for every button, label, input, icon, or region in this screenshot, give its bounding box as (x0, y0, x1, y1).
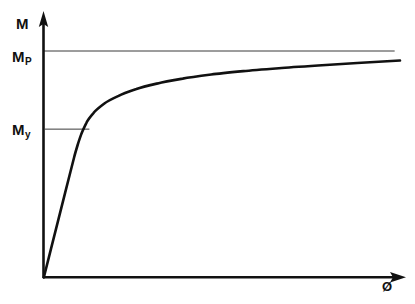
yield-moment-label-base: M (12, 121, 25, 138)
figure-canvas (0, 0, 415, 304)
yield-moment-label-subscript: y (25, 129, 31, 140)
plastic-moment-label-base: M (12, 48, 25, 65)
plastic-moment-label-subscript: P (25, 56, 32, 67)
x-axis-label: Ø (382, 280, 392, 293)
moment-curvature-figure: M MP My Ø (0, 0, 415, 304)
y-axis-label-base: M (16, 15, 29, 32)
plastic-moment-label: MP (12, 49, 32, 67)
x-axis-label-base: Ø (382, 279, 392, 294)
y-axis-label: M (16, 16, 29, 32)
yield-moment-label: My (12, 122, 31, 140)
moment-curvature-curve (44, 61, 400, 278)
